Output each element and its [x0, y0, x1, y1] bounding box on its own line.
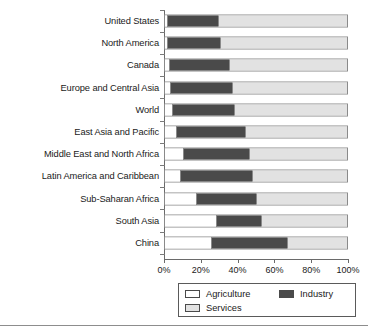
y-tick [160, 76, 165, 77]
stacked-bar [164, 214, 348, 227]
y-tick [160, 187, 165, 188]
bar-segment-industry [167, 16, 218, 27]
category-label: North America [101, 38, 164, 49]
legend-item-industry: Industry [279, 289, 333, 299]
bar-segment-industry [176, 127, 245, 138]
bar-row: North America [0, 32, 368, 54]
y-tick [160, 54, 165, 55]
bar-row: Canada [0, 54, 368, 76]
x-tick [274, 259, 275, 263]
x-tick [164, 259, 165, 263]
legend-item-services: Services [185, 303, 279, 313]
bar-segment-services [232, 82, 347, 93]
bar-row: Sub-Saharan Africa [0, 188, 368, 210]
category-label: Latin America and Caribbean [42, 171, 164, 182]
y-tick [160, 232, 165, 233]
category-label: Canada [127, 60, 164, 71]
bar-segment-industry [196, 193, 256, 204]
legend-row: Services [185, 301, 355, 315]
bar-row: Middle East and North Africa [0, 143, 368, 165]
x-tick-label: 80% [302, 265, 320, 275]
category-label: World [135, 104, 164, 115]
stacked-bar [164, 37, 348, 50]
bar-segment-services [234, 104, 347, 115]
services-swatch-icon [185, 304, 200, 312]
stacked-bar [164, 81, 348, 94]
bar-segment-industry [170, 82, 232, 93]
bar-segment-industry [172, 104, 234, 115]
x-tick [201, 259, 202, 263]
bar-segment-services [252, 171, 347, 182]
stacked-bar [164, 15, 348, 28]
bar-segment-services [229, 60, 347, 71]
bar-segment-industry [183, 149, 249, 160]
y-tick [160, 209, 165, 210]
category-label: East Asia and Pacific [74, 127, 164, 138]
bar-segment-industry [167, 38, 220, 49]
x-tick-label: 0% [157, 265, 170, 275]
x-axis-line [164, 259, 349, 260]
bar-row: East Asia and Pacific [0, 121, 368, 143]
stacked-bar-chart-figure: United StatesNorth AmericaCanadaEurope a… [0, 0, 368, 335]
bar-segment-agriculture [165, 215, 216, 226]
bar-segment-services [220, 38, 347, 49]
x-tick-label: 100% [336, 265, 359, 275]
category-label: Sub-Saharan Africa [80, 193, 164, 204]
agriculture-swatch-icon [185, 290, 200, 298]
y-tick [160, 32, 165, 33]
bar-segment-agriculture [165, 171, 180, 182]
bar-row: World [0, 99, 368, 121]
bar-segment-services [249, 149, 347, 160]
industry-swatch-icon [279, 290, 294, 298]
x-tick [348, 259, 349, 263]
bar-segment-services [261, 215, 347, 226]
footer-divider [0, 325, 368, 326]
legend-label-services: Services [206, 303, 242, 313]
bar-segment-agriculture [165, 238, 211, 249]
bar-row: Latin America and Caribbean [0, 165, 368, 187]
x-tick-label: 20% [192, 265, 210, 275]
bar-segment-services [256, 193, 347, 204]
y-tick [160, 143, 165, 144]
bar-row: United States [0, 10, 368, 32]
y-tick [160, 98, 165, 99]
category-label: South Asia [116, 215, 164, 226]
x-tick-label: 60% [265, 265, 283, 275]
y-tick [160, 121, 165, 122]
y-tick [160, 254, 165, 255]
bar-row: South Asia [0, 210, 368, 232]
plot-area: United StatesNorth AmericaCanadaEurope a… [0, 0, 368, 268]
bar-segment-services [287, 238, 347, 249]
category-label: Middle East and North Africa [44, 149, 164, 160]
stacked-bar [164, 103, 348, 116]
bar-segment-services [218, 16, 347, 27]
bar-segment-industry [216, 215, 262, 226]
bar-row: Europe and Central Asia [0, 77, 368, 99]
category-label: China [135, 238, 164, 249]
category-label: Europe and Central Asia [61, 82, 164, 93]
legend-label-agriculture: Agriculture [206, 289, 250, 299]
bar-segment-industry [180, 171, 253, 182]
legend-item-agriculture: Agriculture [185, 289, 279, 299]
stacked-bar [164, 126, 348, 139]
chart-legend: Agriculture Industry Services [178, 283, 356, 317]
stacked-bar [164, 237, 348, 250]
x-tick [311, 259, 312, 263]
stacked-bar [164, 148, 348, 161]
legend-label-industry: Industry [300, 289, 333, 299]
bar-segment-agriculture [165, 104, 172, 115]
stacked-bar [164, 59, 348, 72]
x-tick [238, 259, 239, 263]
category-label: United States [104, 16, 164, 27]
bar-segment-industry [211, 238, 287, 249]
y-tick [160, 10, 165, 11]
stacked-bar [164, 170, 348, 183]
stacked-bar [164, 192, 348, 205]
legend-row: Agriculture Industry [185, 287, 355, 301]
bar-segment-agriculture [165, 127, 176, 138]
bar-segment-services [245, 127, 347, 138]
bar-segment-industry [169, 60, 229, 71]
bar-segment-agriculture [165, 149, 183, 160]
bar-row: China [0, 232, 368, 254]
x-tick-label: 40% [229, 265, 247, 275]
